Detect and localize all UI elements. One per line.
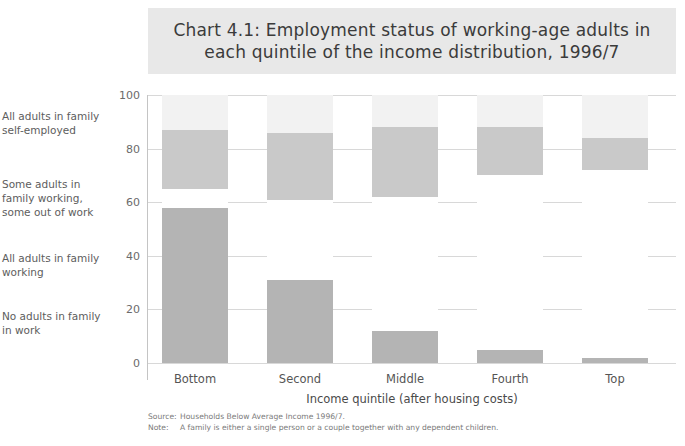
bar-segment[interactable] [372, 95, 438, 127]
bar-segment[interactable] [582, 95, 648, 138]
legend-label: All adults in family self-employed [2, 110, 102, 138]
bar-group[interactable] [162, 95, 228, 363]
y-axis-tick-label: 40 [102, 249, 140, 262]
legend-label: All adults in family working [2, 252, 102, 280]
page-title: Chart 4.1: Employment status of working-… [148, 19, 676, 64]
bar-segment[interactable] [477, 350, 543, 363]
chart-root: Chart 4.1: Employment status of working-… [0, 0, 685, 446]
bar-segment[interactable] [267, 95, 333, 133]
bar-segment[interactable] [582, 358, 648, 363]
legend-label: No adults in family in work [2, 310, 102, 338]
legend-label: Some adults in family working, some out … [2, 178, 102, 220]
plot-area [148, 95, 676, 363]
bar-group[interactable] [477, 95, 543, 363]
bar-segment[interactable] [267, 280, 333, 363]
bar-segment[interactable] [477, 127, 543, 175]
bar-segment[interactable] [477, 95, 543, 127]
x-axis-tick-label: Fourth [455, 372, 565, 386]
y-axis-tick-label: 60 [102, 196, 140, 209]
gridline [148, 363, 676, 364]
bar-segment[interactable] [477, 175, 543, 349]
y-axis-ticks: 020406080100 [100, 95, 140, 363]
chart-title-banner: Chart 4.1: Employment status of working-… [148, 8, 676, 74]
x-axis-tick-label: Middle [350, 372, 460, 386]
bar-segment[interactable] [267, 200, 333, 280]
x-axis-tick-label: Bottom [140, 372, 250, 386]
bar-segment[interactable] [582, 138, 648, 170]
x-axis-tick-label: Second [245, 372, 355, 386]
bar-segment[interactable] [372, 331, 438, 363]
y-axis-tick-label: 80 [102, 142, 140, 155]
bar-group[interactable] [372, 95, 438, 363]
footnote-value: A family is either a single person or a … [180, 422, 668, 433]
x-axis-title: Income quintile (after housing costs) [148, 392, 676, 406]
footnote-value: Households Below Average Income 1996/7. [180, 411, 668, 422]
bar-group[interactable] [267, 95, 333, 363]
bar-segment[interactable] [582, 170, 648, 358]
bar-segment[interactable] [267, 133, 333, 200]
footnotes: Source:Households Below Average Income 1… [148, 411, 668, 434]
y-axis-tick-label: 20 [102, 303, 140, 316]
footnote-row: Note:A family is either a single person … [148, 422, 668, 433]
footnote-row: Source:Households Below Average Income 1… [148, 411, 668, 422]
footnote-key: Source: [148, 411, 180, 422]
y-axis-tick-label: 0 [102, 357, 140, 370]
bar-segment[interactable] [372, 127, 438, 197]
bar-segment[interactable] [162, 95, 228, 130]
bar-segment[interactable] [162, 208, 228, 363]
bar-group[interactable] [582, 95, 648, 363]
bar-segment[interactable] [162, 130, 228, 189]
bar-segment[interactable] [162, 189, 228, 208]
x-axis-tick-label: Top [560, 372, 670, 386]
bar-segment[interactable] [372, 197, 438, 331]
footnote-key: Note: [148, 422, 180, 433]
y-axis-tick-label: 100 [102, 89, 140, 102]
